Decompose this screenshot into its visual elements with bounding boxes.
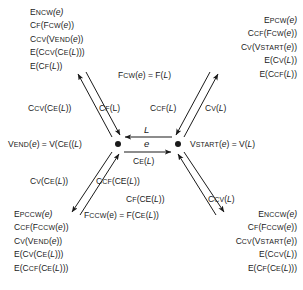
tr-line-3: CV(VSTART(e))	[241, 41, 297, 54]
br-line-1: ENCCW(e)	[236, 208, 297, 221]
block-top-left: ENCW(e) CF(FCW(e)) CCV(VEND(e)) E(CCV(CE…	[30, 6, 85, 73]
label-cv-ce-l: CV(CE(L))	[30, 176, 68, 188]
tl-line-1: ENCW(e)	[30, 6, 85, 19]
label-cv-l: CV(L)	[205, 103, 226, 115]
diagram-canvas: ENCW(e) CF(FCW(e)) CCV(VEND(e)) E(CCV(CE…	[0, 0, 303, 290]
br-line-2: CF(FCCW(e))	[236, 221, 297, 234]
right-node-label: VSTART(e) = V(L)	[190, 139, 255, 151]
br-line-4: E(CCV(L))	[236, 248, 297, 261]
tl-line-2: CF(FCW(e))	[30, 19, 85, 32]
bl-line-1: EPCCW(e)	[14, 208, 68, 221]
label-cf-ce-l: CF(CE(L))	[126, 194, 165, 206]
tr-line-4: E(CV(L))	[241, 54, 297, 67]
block-top-right: EPCW(e) CCF(FCW(e)) CV(VSTART(e)) E(CV(L…	[241, 14, 297, 81]
tr-line-1: EPCW(e)	[241, 14, 297, 27]
br-line-5: E(CF(CE(L)))	[236, 262, 297, 275]
label-ccf-ce-l: CCF(CE(L))	[96, 176, 140, 188]
bl-line-5: E(CCF(CE(L)))	[14, 262, 68, 275]
block-bottom-left: EPCCW(e) CCF(FCCW(e)) CV(VEND(e)) E(CV(C…	[14, 208, 68, 275]
left-node-label: VEND(e) = V(CE((L)	[8, 139, 82, 151]
label-ccv-ce-l: CCV(CE(L))	[28, 103, 71, 115]
tl-line-3: CCV(VEND(e))	[30, 33, 85, 46]
label-ccf-l: CCF(L)	[150, 103, 176, 115]
tr-line-2: CCF(FCW(e))	[241, 27, 297, 40]
bl-line-2: CCF(FCCW(e))	[14, 221, 68, 234]
label-ccv-l: CCV(L)	[208, 194, 235, 206]
label-fccw-relation: FCCW(e) = F(CE(L))	[84, 210, 159, 222]
center-label-CE-L: CE(L)	[133, 156, 154, 168]
tl-line-5: E(CF(L))	[30, 60, 85, 73]
arrow-lower-right-in	[178, 154, 216, 215]
label-fcw-relation: FCW(e) = F(L)	[118, 70, 171, 82]
tr-line-5: E(CCF(L))	[241, 68, 297, 81]
br-line-3: CCV(VSTART(e))	[236, 235, 297, 248]
block-bottom-right: ENCCW(e) CF(FCCW(e)) CCV(VSTART(e)) E(CC…	[236, 208, 297, 275]
center-label-e: e	[144, 138, 149, 150]
label-cf-l: CF(L)	[99, 103, 120, 115]
bl-line-3: CV(VEND(e))	[14, 235, 68, 248]
tl-line-4: E(CCV(CE(L)))	[30, 46, 85, 59]
center-label-L: L	[144, 124, 149, 136]
right-node-dot	[175, 141, 181, 147]
bl-line-4: E(CV(CE(L)))	[14, 248, 68, 261]
left-node-dot	[115, 141, 121, 147]
